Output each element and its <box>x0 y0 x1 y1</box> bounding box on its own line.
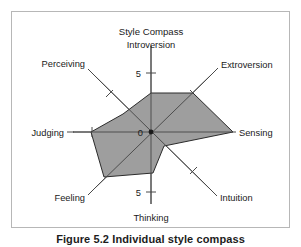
figure-caption: Figure 5.2 Individual style compass <box>0 233 301 245</box>
axis-label-perceiving: Perceiving <box>42 59 85 69</box>
leader-intuition <box>210 189 217 196</box>
tick-label-top: 5 <box>136 69 141 79</box>
origin-label: 0 <box>138 128 143 138</box>
axis-label-thinking: Thinking <box>133 213 168 223</box>
tick-northwest-5 <box>106 90 113 97</box>
tick-label-bottom: 5 <box>136 188 141 198</box>
data-polygon <box>91 93 233 177</box>
style-compass-chart: Style Compass Introversion Extroversion … <box>12 12 289 227</box>
axis-label-extroversion: Extroversion <box>221 60 273 70</box>
axis-label-introversion: Introversion <box>127 40 176 50</box>
axis-label-intuition: Intuition <box>220 193 253 203</box>
leader-feeling <box>88 188 95 195</box>
leader-perceiving <box>88 69 95 76</box>
leader-extroversion <box>211 68 218 75</box>
chart-frame: Style Compass Introversion Extroversion … <box>11 11 290 228</box>
axis-label-feeling: Feeling <box>55 193 86 203</box>
axis-label-sensing: Sensing <box>239 128 273 138</box>
chart-title: Style Compass <box>119 26 184 37</box>
figure-page: Style Compass Introversion Extroversion … <box>0 0 301 247</box>
axis-label-judging: Judging <box>31 128 64 138</box>
origin-dot <box>149 130 154 135</box>
